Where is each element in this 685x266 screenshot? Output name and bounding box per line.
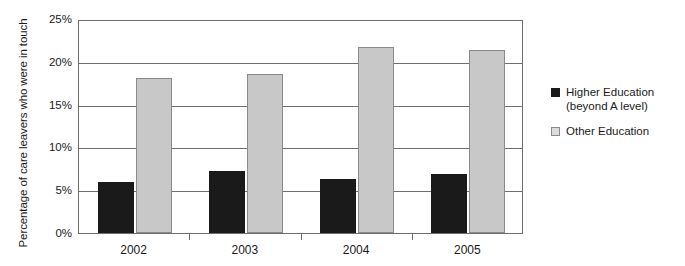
bar xyxy=(320,179,356,233)
bar xyxy=(431,174,467,233)
legend-label: Other Education xyxy=(566,125,649,139)
legend-entry: Other Education xyxy=(551,125,685,139)
legend: Higher Education(beyond A level)Other Ed… xyxy=(551,86,685,151)
legend-swatch-icon xyxy=(551,88,560,97)
plot-area xyxy=(78,20,523,234)
bar xyxy=(358,47,394,233)
y-axis-tick-label: 5% xyxy=(32,185,72,197)
legend-label-line2: (beyond A level) xyxy=(566,100,654,114)
x-axis-tick-label: 2002 xyxy=(94,243,174,257)
x-axis-tick xyxy=(412,234,413,240)
y-axis-tick-label: 15% xyxy=(32,100,72,112)
y-axis-tick-label: 10% xyxy=(32,142,72,154)
x-axis-tick xyxy=(301,234,302,240)
x-axis-tick-label: 2003 xyxy=(205,243,285,257)
x-axis-tick xyxy=(189,234,190,240)
y-axis-tick-label: 0% xyxy=(32,228,72,240)
legend-entry: Higher Education(beyond A level) xyxy=(551,86,685,113)
bar xyxy=(98,182,134,233)
bar xyxy=(469,50,505,233)
y-axis-tick-label: 25% xyxy=(32,14,72,26)
bars-layer xyxy=(79,21,522,233)
y-axis-tick-label: 20% xyxy=(32,57,72,69)
x-axis-tick-label: 2005 xyxy=(427,243,507,257)
bar xyxy=(209,171,245,233)
bar xyxy=(247,74,283,233)
legend-swatch-icon xyxy=(551,127,560,136)
bar xyxy=(136,78,172,233)
x-axis-tick-label: 2004 xyxy=(316,243,396,257)
x-axis: 2002200320042005 xyxy=(78,234,523,266)
legend-label: Higher Education(beyond A level) xyxy=(566,86,654,113)
y-axis-tick-labels: 0%5%10%15%20%25% xyxy=(28,0,72,266)
bar-chart: Percentage of care leavers who were in t… xyxy=(0,0,685,266)
